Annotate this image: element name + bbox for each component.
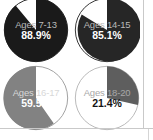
pie-chart-figure: Ages 7-13 88.9% Ages 14-15 85.1%	[0, 0, 153, 140]
pie-chart-grid: Ages 7-13 88.9% Ages 14-15 85.1%	[0, 0, 143, 128]
pie-ages-7-13-svg	[3, 0, 69, 63]
pie-ages-18-20	[74, 65, 140, 131]
frame-border-bottom	[0, 128, 153, 129]
pie-ages-16-17	[3, 65, 69, 131]
pie-ages-14-15-svg	[74, 0, 140, 63]
frame-border-right-lower	[148, 129, 149, 140]
pie-ages-18-20-svg	[74, 65, 140, 131]
pie-panel-ages-16-17[interactable]: Ages 16-17 59.5%	[0, 64, 72, 132]
pie-panel-ages-14-15[interactable]: Ages 14-15 85.1%	[71, 0, 143, 64]
frame-border-right	[143, 0, 144, 129]
pie-ages-14-15	[74, 0, 140, 63]
pie-ages-7-13	[3, 0, 69, 63]
pie-ages-16-17-svg	[3, 65, 69, 131]
pie-panel-ages-7-13[interactable]: Ages 7-13 88.9%	[0, 0, 72, 64]
pie-panel-ages-18-20[interactable]: Ages 18-20 21.4%	[71, 64, 143, 132]
